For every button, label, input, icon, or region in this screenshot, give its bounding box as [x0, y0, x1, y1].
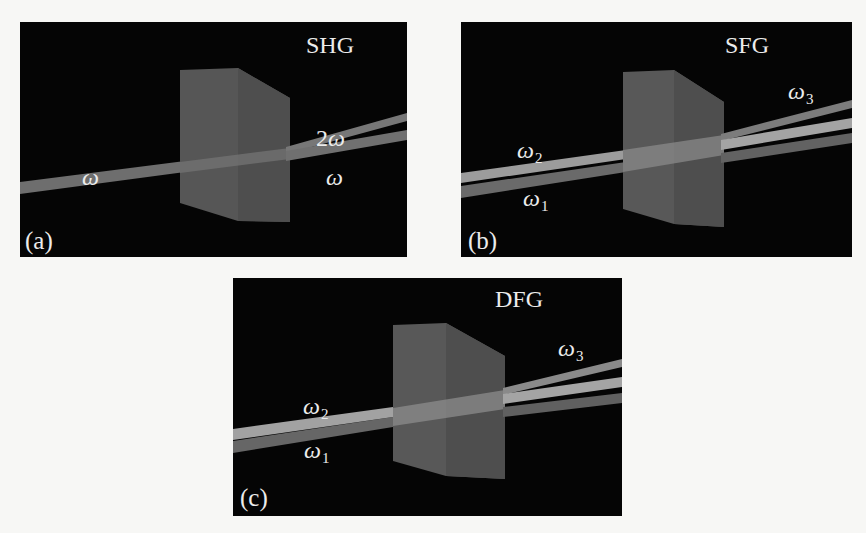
dfg-illustration	[233, 278, 622, 516]
label-omega3: ω3	[558, 336, 583, 364]
panel-title: SFG	[725, 33, 769, 57]
panel-b-sfg: SFG ω2 ω1 ω3 (b)	[461, 22, 852, 257]
label-omega2: ω2	[303, 394, 328, 422]
label-omega2: ω2	[517, 138, 542, 166]
label-input-omega: ω	[82, 165, 99, 189]
label-omega1: ω1	[304, 438, 329, 466]
label-omega1: ω1	[523, 186, 548, 214]
panel-tag: (b)	[468, 228, 497, 253]
panel-tag: (a)	[25, 228, 53, 253]
panel-tag: (c)	[240, 485, 268, 510]
input-beam	[20, 161, 185, 194]
label-output-omega: ω	[326, 165, 343, 189]
panel-title: SHG	[306, 33, 354, 57]
panel-c-dfg: DFG ω2 ω1 ω3 (c)	[233, 278, 622, 516]
panel-a-shg: SHG ω 2ω ω (a)	[20, 22, 407, 257]
label-omega3: ω3	[788, 79, 813, 107]
crystal	[180, 68, 290, 222]
panel-title: DFG	[495, 287, 543, 311]
label-output-2omega: 2ω	[316, 126, 345, 150]
